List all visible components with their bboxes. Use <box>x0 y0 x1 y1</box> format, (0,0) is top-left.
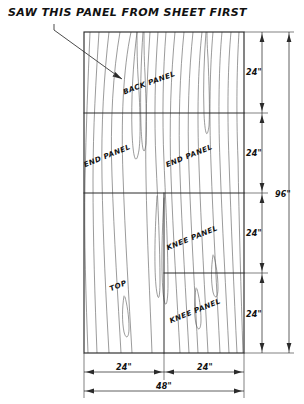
overall-height-label: 96" <box>275 190 291 199</box>
panel-cut-layout-diagram: SAW THIS PANEL FROM SHEET FIRST <box>0 0 304 404</box>
vertical-dim-label-3: 24" <box>246 229 262 238</box>
title-annotation: SAW THIS PANEL FROM SHEET FIRST <box>8 6 248 19</box>
vertical-dim-label-2: 24" <box>246 149 262 158</box>
paper-background <box>0 0 304 404</box>
vertical-dim-label-4: 24" <box>246 310 262 319</box>
overall-width-label: 48" <box>155 382 172 391</box>
horizontal-dim-label-2: 24" <box>197 363 213 372</box>
vertical-dim-label-1: 24" <box>246 68 262 77</box>
horizontal-dim-label-1: 24" <box>116 363 132 372</box>
